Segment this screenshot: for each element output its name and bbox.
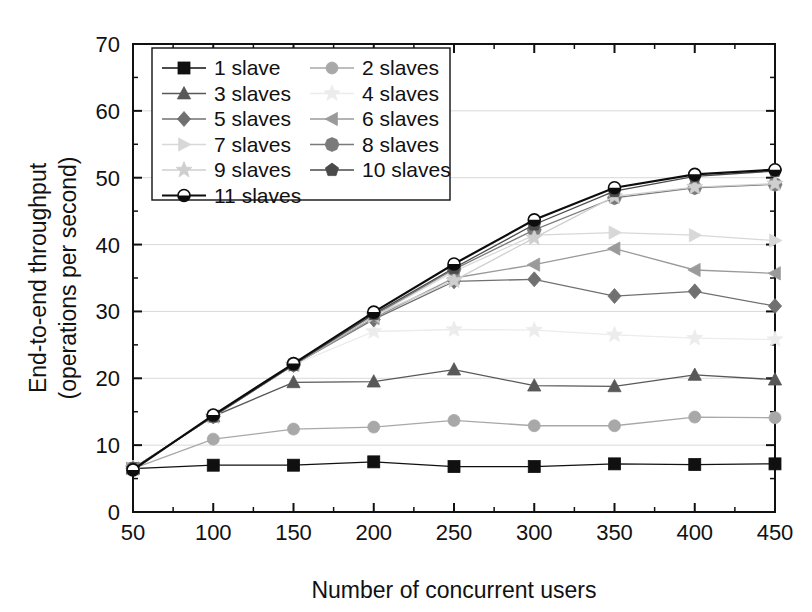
- chart-canvas: 0102030405060705010015020025030035040045…: [0, 0, 812, 612]
- marker-triangle-left-5-7: [688, 263, 700, 276]
- marker-triangle-up-2-7: [688, 368, 701, 380]
- ytick-label-0: 0: [108, 500, 120, 525]
- xtick-label-450: 450: [757, 520, 794, 545]
- marker-star-3-5: [526, 322, 542, 337]
- series-1-slave: [127, 456, 781, 475]
- marker-square-legend-0: [178, 62, 190, 74]
- series-11-slaves: [127, 164, 781, 476]
- chart-figure: 0102030405060705010015020025030035040045…: [0, 0, 812, 612]
- series-4-slaves: [125, 321, 783, 475]
- marker-circle-half-10-4: [448, 258, 460, 270]
- marker-star-3-6: [607, 326, 623, 341]
- marker-octagon-legend-7: [325, 138, 339, 152]
- marker-square-0-1: [207, 459, 219, 471]
- xtick-label-350: 350: [596, 520, 633, 545]
- legend-label-4: 5 slaves: [214, 107, 291, 130]
- ytick-label-30: 30: [96, 299, 120, 324]
- marker-square-0-2: [288, 459, 300, 471]
- xtick-label-50: 50: [121, 520, 145, 545]
- legend-label-9: 10 slaves: [362, 158, 451, 181]
- marker-triangle-right-6-6: [609, 226, 621, 239]
- xtick-label-200: 200: [355, 520, 392, 545]
- marker-circle-half-10-8: [769, 164, 781, 176]
- x-axis-label: Number of concurrent users: [311, 577, 596, 603]
- marker-circle-1-3: [368, 421, 380, 433]
- marker-diamond-4-7: [688, 284, 701, 299]
- legend-label-7: 8 slaves: [362, 133, 439, 156]
- xtick-label-150: 150: [275, 520, 312, 545]
- ytick-label-50: 50: [96, 166, 120, 191]
- legend-label-5: 6 slaves: [362, 107, 439, 130]
- marker-star-3-7: [687, 330, 703, 345]
- legend-label-3: 4 slaves: [362, 82, 439, 105]
- xtick-label-250: 250: [436, 520, 473, 545]
- legend-label-10: 11 slaves: [214, 184, 301, 207]
- marker-square-0-3: [368, 456, 380, 468]
- marker-circle-1-2: [288, 423, 300, 435]
- legend-label-0: 1 slave: [214, 56, 281, 79]
- marker-circle-half-10-0: [127, 464, 139, 476]
- marker-square-0-4: [448, 461, 460, 473]
- ytick-label-20: 20: [96, 366, 120, 391]
- marker-triangle-up-2-4: [447, 363, 460, 375]
- marker-circle-1-8: [769, 412, 781, 424]
- marker-circle-1-6: [609, 420, 621, 432]
- marker-circle-1-1: [207, 433, 219, 445]
- marker-circle-1-4: [448, 414, 460, 426]
- xtick-label-100: 100: [195, 520, 232, 545]
- ytick-label-10: 10: [96, 433, 120, 458]
- xtick-label-400: 400: [676, 520, 713, 545]
- marker-circle-half-10-5: [528, 214, 540, 226]
- ytick-label-40: 40: [96, 233, 120, 258]
- marker-square-0-5: [528, 461, 540, 473]
- marker-triangle-left-5-6: [608, 242, 620, 255]
- marker-circle-1-7: [689, 411, 701, 423]
- marker-square-0-6: [609, 458, 621, 470]
- series-10-slaves: [126, 164, 781, 474]
- ytick-label-60: 60: [96, 99, 120, 124]
- marker-circle-half-10-7: [689, 168, 701, 180]
- marker-circle-1-5: [528, 420, 540, 432]
- marker-triangle-left-5-5: [527, 258, 539, 271]
- marker-triangle-up-2-2: [287, 375, 300, 387]
- series-line-3: [133, 329, 775, 468]
- y-axis-label-line2: (operations per second): [55, 157, 81, 400]
- marker-star-3-4: [446, 321, 462, 336]
- marker-circle-half-10-2: [288, 358, 300, 370]
- legend-label-2: 3 slaves: [214, 82, 291, 105]
- marker-circle-legend-1: [326, 62, 338, 74]
- marker-circle-half-10-1: [207, 409, 219, 421]
- marker-square-0-7: [689, 459, 701, 471]
- legend-label-1: 2 slaves: [362, 56, 439, 79]
- xtick-label-300: 300: [516, 520, 553, 545]
- legend-label-8: 9 slaves: [214, 158, 291, 181]
- marker-diamond-4-6: [608, 289, 621, 304]
- marker-circle-half-10-6: [609, 182, 621, 194]
- marker-circle-half-legend-10: [178, 190, 190, 202]
- marker-diamond-4-5: [528, 272, 541, 287]
- y-axis-label-line1: End-to-end throughput: [25, 162, 51, 393]
- marker-circle-half-10-3: [368, 306, 380, 318]
- legend-label-6: 7 slaves: [214, 133, 291, 156]
- marker-triangle-right-6-7: [689, 229, 701, 242]
- ytick-label-70: 70: [96, 32, 120, 57]
- marker-square-0-8: [769, 458, 781, 470]
